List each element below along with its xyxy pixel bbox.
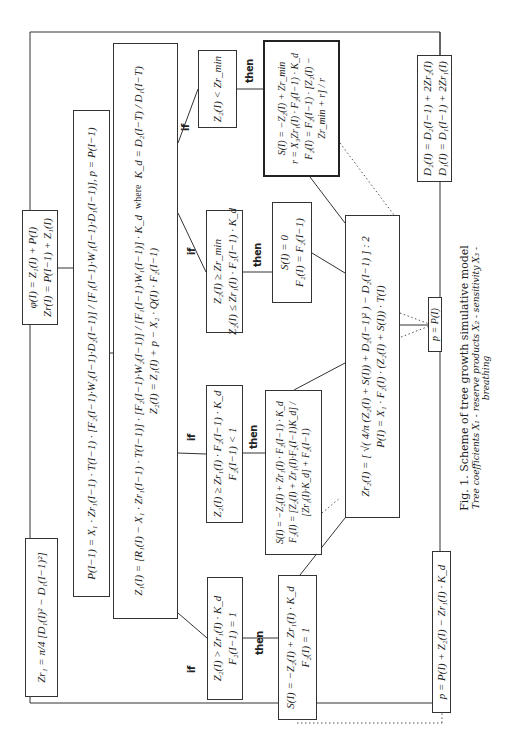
- zr-formula: Zr(I) = P(I−1) + Z₁(I): [40, 218, 55, 317]
- zr1-formula-box: Zr₁ = π/4 [D₁(I)² − D₁(I−1)²]: [25, 538, 58, 697]
- then-label-4: then: [244, 59, 255, 83]
- condition-box-1: Z₂(I) > Zr₁(I) · K_d F₂(I−1) = 1: [207, 577, 243, 700]
- condition-1-line-2: F₂(I−1) = 1: [225, 612, 240, 665]
- then-4-line-2: r = X₃Zr₁(I) · F₂(I−1) · K_d: [288, 53, 302, 164]
- then-box-3: S(I) = 0 F₂(I) = F₂(I−1): [272, 202, 312, 303]
- if-label-2: if: [186, 434, 197, 441]
- figure-caption: Fig. 1. Scheme of tree growth simulative…: [458, 243, 491, 513]
- condition-4-line-1: Z₂(I) < Zr_min: [210, 56, 225, 122]
- p-final-box: p = P(I) + Z₂(I) − Zr₁(I) · K_d: [432, 551, 451, 713]
- then-3-line-1: S(I) = 0: [277, 235, 292, 270]
- kd-formula: K_d = D₂(I−T) / D₁(I−T): [131, 66, 146, 178]
- condition-box-2: Z₂(I) ≥ Zr₁(I) · F₂(I−1) · K_d F₂(I−1) <…: [206, 385, 243, 523]
- p-prev-formula-box: P(I−1) = X₁ · Zr₁(I−1) · T(I−1) · [F₂(I−…: [73, 110, 110, 597]
- condition-3-line-2: Z₂(I) ≤ Zr₁(I) · F₂(I−1) · K_d: [225, 208, 240, 335]
- phi-formula-box: φ(I) = Z₁(I) + P(I) Zr(I) = P(I−1) + Z₁(…: [22, 210, 58, 325]
- zr2-formula: Zr₂(I) = [ √( 4/π (Z₂(I) + S(I)) + D₂(I−…: [358, 236, 373, 497]
- then-2-line-1: S(I) = −Z₂(I) + Zr₁(I) · F₂(I−1) · K_d: [274, 401, 287, 544]
- then-1-line-2: F₂(I) = 1: [298, 628, 313, 668]
- if-label-1: if: [186, 666, 197, 673]
- then-4-line-3: F₂(I) = F₂(I−1) · [Z₂(I) − Zr_min + r] /…: [302, 46, 329, 171]
- if-label-3: if: [186, 248, 197, 255]
- caption-subtitle: Tree coefficients X₁ - reserve products …: [471, 243, 491, 513]
- condition-1-line-1: Z₂(I) > Zr₁(I) · K_d: [210, 596, 225, 682]
- then-label-1: then: [254, 631, 265, 655]
- then-4-line-1: S(I) = −Z₂(I) + Zr_min: [275, 62, 289, 156]
- then-1-line-1: S(I) = −Z₂(I) + Zr₁(I) · K_d: [283, 586, 298, 709]
- condition-box-4: Z₂(I) < Zr_min: [198, 50, 237, 128]
- then-3-line-2: F₂(I) = F₂(I−1): [292, 218, 307, 287]
- if-label-4: if: [180, 124, 191, 131]
- condition-box-3: Z₂(I) ≥ Zr_min Z₂(I) ≤ Zr₁(I) · F₂(I−1) …: [206, 210, 243, 333]
- then-box-1: S(I) = −Z₂(I) + Zr₁(I) · K_d F₂(I) = 1: [278, 575, 317, 720]
- then-label-3: then: [252, 243, 263, 267]
- then-box-4: S(I) = −Z₂(I) + Zr_min r = X₃Zr₁(I) · F₂…: [263, 40, 340, 177]
- then-label-2: then: [248, 425, 259, 449]
- condition-2-line-2: F₂(I−1) < 1: [225, 428, 240, 481]
- condition-3-line-1: Z₂(I) ≥ Zr_min: [210, 239, 225, 304]
- p-eq-box: p = P(I): [428, 297, 442, 352]
- caption-title: Fig. 1. Scheme of tree growth simulative…: [458, 243, 471, 513]
- p-prev-formula: P(I−1) = X₁ · Zr₁(I−1) · T(I−1) · [F₂(I−…: [84, 127, 99, 579]
- p-final-formula: p = P(I) + Z₂(I) − Zr₁(I) · K_d: [434, 565, 449, 700]
- then-2-line-2: F₂(I) = [Z₂(I) + Zr₁(I)·F₂(I−1)K_d] / [Z…: [287, 395, 313, 550]
- d1-formula: D₁(I) = D₁(I−1) + 2Zr₁(I): [435, 61, 450, 176]
- z2-formula: Z₂(I) = Z₁(I) + p − X₂ · Q(I) · F₂(I−1): [146, 248, 161, 415]
- p-eq-formula: p = P(I): [428, 308, 442, 341]
- zr1-formula: Zr₁ = π/4 [D₁(I)² − D₁(I−1)²]: [34, 552, 49, 682]
- condition-2-line-1: Z₂(I) ≥ Zr₁(I) · F₂(I−1) · K_d: [210, 391, 225, 518]
- zr2-formula-box: Zr₂(I) = [ √( 4/π (Z₂(I) + S(I)) + D₂(I−…: [345, 215, 400, 518]
- p-formula: P(I) = X₁ · F₂(I) · (Z₂(I) + S(I)) · T(I…: [373, 285, 388, 447]
- d2-formula: D₂(I) = D₂(I−1) + 2Zr₂(I): [420, 61, 435, 176]
- d-formula-box: D₂(I) = D₂(I−1) + 2Zr₂(I) D₁(I) = D₁(I−1…: [417, 55, 452, 182]
- then-box-2: S(I) = −Z₂(I) + Zr₁(I) · F₂(I−1) · K_d F…: [265, 390, 322, 555]
- z1-formula: Z₁(I) = [R₁(I) − X₁ · Zr₁(I−1) · T(I−1)]…: [131, 215, 146, 596]
- phi-formula: φ(I) = Z₁(I) + P(I): [25, 227, 40, 309]
- where-label: where: [131, 185, 145, 209]
- z1-formula-box: Z₁(I) = [R₁(I) − X₁ · Zr₁(I−1) · T(I−1)]…: [113, 43, 178, 619]
- diagram-canvas: A NEW MATHEMATICAL...: [0, 0, 507, 743]
